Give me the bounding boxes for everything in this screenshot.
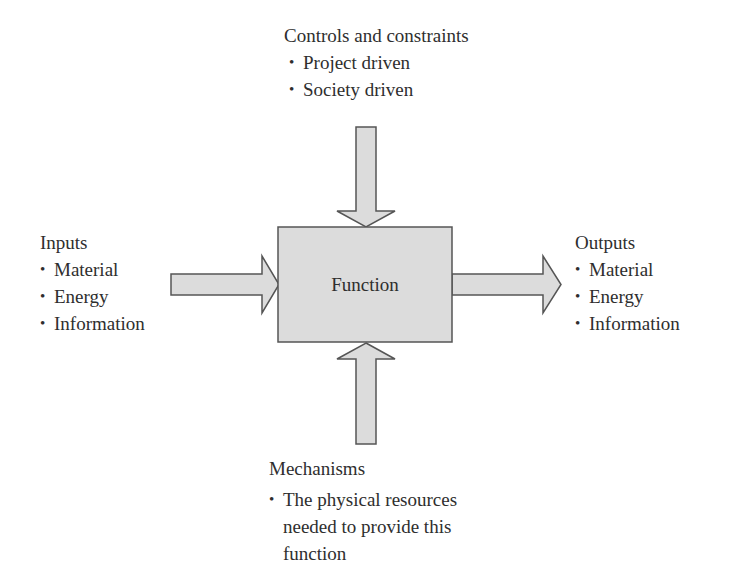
outputs-item: Energy — [575, 283, 680, 310]
outputs-list: Material Energy Information — [575, 256, 680, 337]
mechanisms-block: Mechanisms The physical resources needed… — [269, 455, 499, 567]
outputs-heading: Outputs — [575, 229, 680, 256]
mechanisms-arrow — [337, 343, 395, 444]
mechanisms-item: The physical resources needed to provide… — [269, 486, 499, 567]
inputs-arrow — [171, 256, 279, 313]
controls-heading: Controls and constraints — [284, 22, 469, 49]
outputs-item: Material — [575, 256, 680, 283]
inputs-item: Information — [40, 310, 145, 337]
mechanisms-heading: Mechanisms — [269, 455, 499, 482]
function-label: Function — [278, 227, 452, 342]
mechanisms-list: The physical resources needed to provide… — [269, 486, 499, 567]
controls-block: Controls and constraints Project driven … — [284, 22, 469, 103]
controls-list: Project driven Society driven — [289, 49, 469, 103]
inputs-list: Material Energy Information — [40, 256, 145, 337]
outputs-arrow — [452, 256, 561, 313]
controls-item: Society driven — [289, 76, 469, 103]
inputs-block: Inputs Material Energy Information — [40, 229, 145, 337]
inputs-heading: Inputs — [40, 229, 145, 256]
outputs-item: Information — [575, 310, 680, 337]
controls-arrow — [337, 127, 395, 227]
inputs-item: Energy — [40, 283, 145, 310]
outputs-block: Outputs Material Energy Information — [575, 229, 680, 337]
controls-item: Project driven — [289, 49, 469, 76]
idef0-diagram: Function Controls and constraints Projec… — [0, 0, 734, 582]
inputs-item: Material — [40, 256, 145, 283]
